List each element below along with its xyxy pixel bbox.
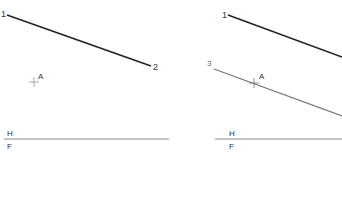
line-1-2 <box>228 15 342 57</box>
f-plane-label: F <box>229 142 234 151</box>
point-3-label: 3 <box>207 59 212 68</box>
descriptive-geometry-diagram: 1 2 A H F 1 3 A H F <box>0 0 342 198</box>
h-plane-label: H <box>229 129 235 138</box>
point-1-label: 1 <box>1 9 6 19</box>
line-3-through-a <box>214 69 342 116</box>
point-a-cross-icon <box>249 78 259 88</box>
point-a-label: A <box>259 72 265 81</box>
left-panel: 1 2 A H F <box>1 9 169 151</box>
f-plane-label: F <box>7 142 12 151</box>
point-1-label: 1 <box>222 10 227 20</box>
point-2-label: 2 <box>153 62 158 72</box>
right-panel: 1 3 A H F <box>207 10 342 151</box>
h-plane-label: H <box>7 129 13 138</box>
point-a-label: A <box>38 72 44 81</box>
line-1-2 <box>7 15 151 66</box>
